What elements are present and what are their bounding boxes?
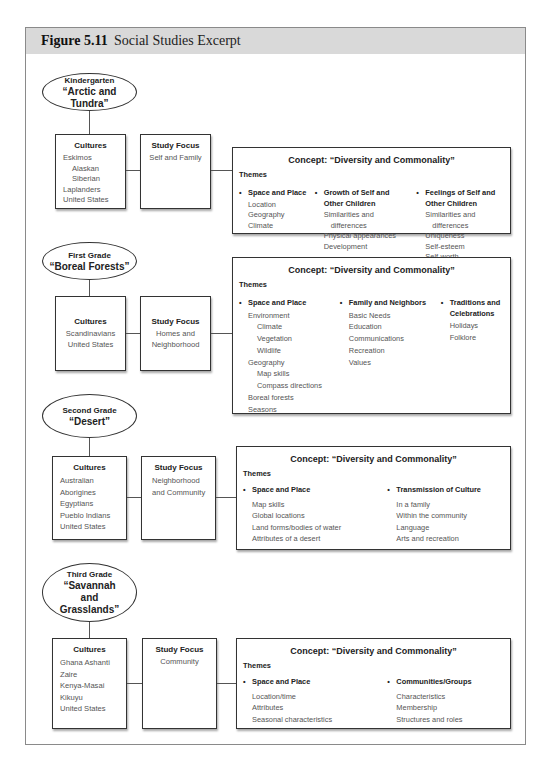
- theme-column: •Transmission of Culture In a family Wit…: [387, 485, 506, 545]
- focus-item: Homes and: [141, 329, 210, 340]
- bullet-icon: •: [387, 485, 396, 496]
- themes-heading: Themes: [243, 661, 510, 670]
- theme-column: •Space and Place Location/time Attribute…: [243, 677, 387, 725]
- connector: [211, 170, 232, 171]
- study-focus-heading: Study Focus: [142, 463, 215, 472]
- focus-item: Self and Family: [141, 153, 210, 164]
- study-focus-box: Study Focus Community: [142, 638, 217, 729]
- study-focus-heading: Study Focus: [143, 645, 216, 654]
- figure-header: Figure 5.11 Social Studies Excerpt: [26, 28, 525, 54]
- bullet-icon: •: [416, 188, 425, 209]
- culture-item: United States: [60, 703, 126, 715]
- theme-column: •Family and Neighbors Basic Needs Educat…: [340, 298, 441, 416]
- connector: [216, 497, 236, 498]
- bullet-icon: •: [239, 298, 248, 309]
- concept-box: Concept: “Diversity and Commonality” The…: [232, 257, 511, 414]
- bullet-icon: •: [315, 188, 324, 209]
- themes-heading: Themes: [239, 280, 510, 289]
- grade-label: First Grade: [68, 250, 111, 261]
- culture-item: Scandinavians: [56, 329, 125, 340]
- theme-column: •Growth of Self and Other Children Simil…: [315, 188, 417, 263]
- culture-item: Aborigines: [60, 487, 126, 499]
- culture-item: Zaire: [60, 669, 126, 681]
- cultures-heading: Cultures: [53, 463, 126, 472]
- cultures-box: Cultures Scandinavians United States: [55, 296, 126, 371]
- study-focus-heading: Study Focus: [141, 141, 210, 150]
- grade-ellipse-second-grade: Second Grade “Desert”: [42, 394, 137, 438]
- concept-box: Concept: “Diversity and Commonality” The…: [232, 147, 511, 234]
- culture-item: Eskimos: [63, 153, 125, 164]
- culture-item: Alaskan: [63, 164, 125, 175]
- culture-item: Kikuyu: [60, 692, 126, 704]
- connector: [89, 280, 90, 296]
- grade-ellipse-kindergarten: Kindergarten “Arctic and Tundra”: [42, 73, 137, 111]
- focus-item: Neighborhood: [152, 475, 215, 487]
- bullet-icon: •: [387, 677, 396, 688]
- cultures-box: Cultures Eskimos Alaskan Siberian Laplan…: [55, 134, 126, 209]
- concept-box: Concept: “Diversity and Commonality” The…: [236, 638, 511, 729]
- theme-column: •Space and Place Map skills Global locat…: [243, 485, 387, 545]
- connector: [89, 438, 90, 456]
- bullet-icon: •: [441, 298, 450, 319]
- grade-ellipse-first-grade: First Grade “Boreal Forests”: [42, 242, 137, 280]
- culture-item: United States: [63, 195, 125, 206]
- figure-number: Figure 5.11: [41, 33, 108, 49]
- grade-topic: “Desert”: [69, 416, 110, 428]
- figure-title: Social Studies Excerpt: [114, 33, 241, 49]
- concept-title: Concept: “Diversity and Commonality”: [237, 646, 510, 656]
- grade-topic: “Arctic and Tundra”: [43, 86, 136, 110]
- study-focus-heading: Study Focus: [141, 317, 210, 326]
- grade-topic: “Savannah and Grasslands”: [55, 580, 125, 616]
- theme-column: •Traditions and Celebrations Holidays Fo…: [441, 298, 506, 416]
- connector: [217, 683, 236, 684]
- culture-item: Laplanders: [63, 185, 125, 196]
- bullet-icon: •: [340, 298, 349, 309]
- themes-heading: Themes: [243, 469, 510, 478]
- concept-title: Concept: “Diversity and Commonality”: [233, 155, 510, 165]
- connector: [211, 333, 232, 334]
- culture-item: United States: [56, 340, 125, 351]
- connector: [127, 497, 141, 498]
- grade-topic: “Boreal Forests”: [49, 261, 129, 273]
- theme-column: •Feelings of Self and Other Children Sim…: [416, 188, 506, 263]
- study-focus-box: Study Focus Homes and Neighborhood: [140, 296, 211, 371]
- study-focus-box: Study Focus Neighborhood and Community: [141, 456, 216, 540]
- concept-box: Concept: “Diversity and Commonality” The…: [236, 446, 511, 550]
- cultures-heading: Cultures: [56, 141, 125, 150]
- focus-item: and Community: [152, 487, 215, 499]
- connector: [89, 111, 90, 134]
- connector: [89, 622, 90, 638]
- bullet-icon: •: [239, 188, 248, 199]
- study-focus-box: Study Focus Self and Family: [140, 134, 211, 209]
- culture-item: Pueblo Indians: [60, 510, 126, 522]
- grade-ellipse-third-grade: Third Grade “Savannah and Grasslands”: [42, 563, 137, 622]
- focus-item: Community: [143, 657, 216, 668]
- connector: [127, 683, 142, 684]
- culture-item: Australian: [60, 475, 126, 487]
- bullet-icon: •: [243, 485, 252, 496]
- cultures-box: Cultures Ghana Ashanti Zaire Kenya-Masai…: [52, 638, 127, 729]
- grade-label: Third Grade: [67, 569, 112, 580]
- culture-item: Ghana Ashanti: [60, 657, 126, 669]
- theme-column: •Space and Place Location Geography Clim…: [239, 188, 315, 263]
- bullet-icon: •: [243, 677, 252, 688]
- focus-item: Neighborhood: [141, 340, 210, 351]
- themes-heading: Themes: [239, 170, 510, 179]
- grade-label: Second Grade: [62, 405, 116, 416]
- culture-item: Kenya-Masai: [60, 680, 126, 692]
- grade-label: Kindergarten: [65, 75, 115, 86]
- connector: [126, 333, 140, 334]
- concept-title: Concept: “Diversity and Commonality”: [237, 454, 510, 464]
- cultures-heading: Cultures: [53, 645, 126, 654]
- culture-item: Egyptians: [60, 498, 126, 510]
- cultures-box: Cultures Australian Aborigines Egyptians…: [52, 456, 127, 540]
- theme-column: •Space and Place Environment Climate Veg…: [239, 298, 340, 416]
- culture-item: Siberian: [63, 174, 125, 185]
- concept-title: Concept: “Diversity and Commonality”: [233, 265, 510, 275]
- theme-column: •Communities/Groups Characteristics Memb…: [387, 677, 506, 725]
- cultures-heading: Cultures: [56, 317, 125, 326]
- culture-item: United States: [60, 521, 126, 533]
- connector: [126, 170, 140, 171]
